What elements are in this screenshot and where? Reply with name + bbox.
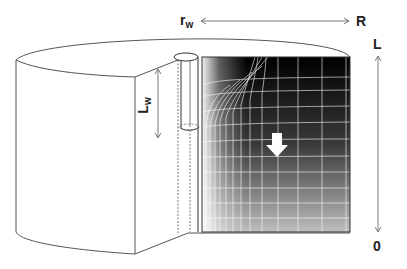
cylinder-top-front: [16, 60, 135, 77]
cylinder-bottom: [16, 232, 135, 254]
label-rw: rw: [180, 13, 193, 30]
lw-arrow: [155, 69, 161, 138]
label-zero: 0: [373, 239, 381, 253]
label-R: R: [356, 14, 366, 28]
wellbore: [174, 53, 199, 233]
rw-r-arrow: [201, 18, 349, 24]
label-Lw: Lw: [136, 97, 153, 113]
reservoir-diagram: [0, 0, 407, 269]
label-L: L: [373, 37, 382, 51]
l-zero-arrow: [375, 56, 381, 232]
